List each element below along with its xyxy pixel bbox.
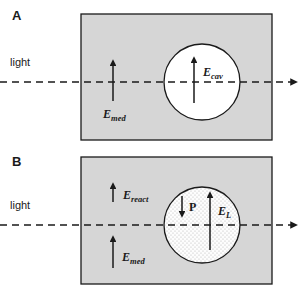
panel-a-light-label: light xyxy=(10,56,30,68)
panel-b-light-label: light xyxy=(10,199,30,211)
two-panel-field-diagram: A light Emed Ecav B light Ereact Emed P … xyxy=(0,0,300,292)
panel-b-polarization-label: P xyxy=(189,200,196,214)
panel-a-label: A xyxy=(12,8,22,23)
panel-b-label: B xyxy=(12,154,21,169)
